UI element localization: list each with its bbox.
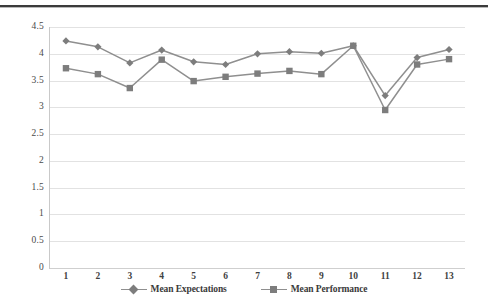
data-point-diamond (62, 37, 69, 44)
data-point-square (414, 61, 420, 67)
data-point-square (222, 74, 228, 80)
data-point-square (95, 71, 101, 77)
chart-legend: Mean Expectations Mean Performance (0, 279, 488, 299)
data-point-diamond (158, 46, 165, 53)
y-axis-tick-label: 2 (4, 155, 44, 165)
data-point-diamond (190, 58, 197, 65)
data-point-square (318, 71, 324, 77)
y-axis-tick-label: 4 (4, 48, 44, 58)
data-point-square (190, 78, 196, 84)
data-point-square (254, 70, 260, 76)
y-axis-tick-label: 2.5 (4, 128, 44, 138)
data-point-square (63, 65, 69, 71)
data-point-square (382, 107, 388, 113)
line-chart-figure: 00.511.522.533.544.5 12345678910111213 M… (0, 9, 488, 307)
y-axis-tick-label: 3.5 (4, 75, 44, 85)
y-axis-tick-label: 1 (4, 208, 44, 218)
y-axis-tick-label: 0.5 (4, 235, 44, 245)
data-point-diamond (445, 46, 452, 53)
data-point-square (286, 68, 292, 74)
square-marker-icon (261, 284, 287, 294)
data-point-diamond (222, 61, 229, 68)
data-point-diamond (94, 43, 101, 50)
data-point-square (350, 43, 356, 49)
data-point-diamond (286, 48, 293, 55)
data-point-diamond (318, 50, 325, 57)
data-point-square (446, 56, 452, 62)
data-point-square (159, 56, 165, 62)
series-line-mean-expectations (66, 41, 449, 96)
y-axis-tick-label: 0 (4, 262, 44, 272)
legend-label: Mean Performance (291, 284, 368, 294)
page-top-rule-shadow (0, 7, 488, 8)
data-point-square (127, 85, 133, 91)
legend-item-mean-expectations[interactable]: Mean Expectations (121, 284, 227, 294)
y-axis-tick-label: 4.5 (4, 21, 44, 31)
data-point-diamond (126, 59, 133, 66)
gridline (50, 268, 465, 269)
data-point-diamond (254, 50, 261, 57)
y-axis-tick-label: 3 (4, 101, 44, 111)
y-axis-tick-label: 1.5 (4, 182, 44, 192)
legend-label: Mean Expectations (151, 284, 227, 294)
series-layer (50, 27, 465, 268)
legend-item-mean-performance[interactable]: Mean Performance (261, 284, 368, 294)
diamond-marker-icon (121, 284, 147, 294)
